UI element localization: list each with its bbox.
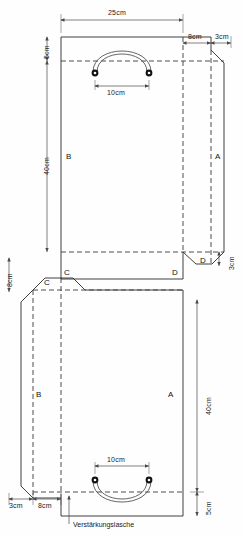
dim-label-glue-tab: 8cm xyxy=(188,33,202,40)
lower-sheet-outline xyxy=(21,278,183,516)
eyelet-upper-right xyxy=(146,70,153,77)
eyelet-lower-left xyxy=(92,477,99,484)
dim-label-handle-upper: 10cm xyxy=(107,89,125,96)
handle-upper xyxy=(93,51,151,72)
panel-label-c-tab: C xyxy=(44,278,50,287)
dim-label-side-tab: 3cm xyxy=(215,33,229,40)
dim-label-top-width: 25cm xyxy=(108,9,126,16)
dim-label-d-tab: 3cm xyxy=(228,256,235,270)
dim-label-left-gusset: 8cm xyxy=(6,273,13,287)
panel-label-c-right: C xyxy=(64,268,70,277)
dim-label-height-upper: 40cm xyxy=(43,157,50,175)
panel-label-a-upper: A xyxy=(215,152,220,161)
eyelet-upper-left xyxy=(92,70,99,77)
panel-label-a-lower: A xyxy=(168,390,173,399)
dim-label-bottom-hem: 5cm xyxy=(205,501,212,515)
panel-label-d-left: D xyxy=(172,268,178,277)
dim-label-top-hem: 5cm xyxy=(43,45,50,59)
panel-label-d-tab: D xyxy=(200,256,206,265)
panel-label-b-upper: B xyxy=(66,152,71,161)
annotation-reinforcement-tab: Verstärkungslasche xyxy=(73,521,134,528)
panel-label-b-lower: B xyxy=(36,390,41,399)
upper-sheet-fold-lines xyxy=(61,37,224,264)
dim-label-handle-lower: 10cm xyxy=(107,456,125,463)
pattern-drawing-canvas: 25cm 5cm 8cm 3cm 10cm 40cm 3cm 8cm 3cm 8… xyxy=(0,0,244,537)
handle-lower xyxy=(93,481,151,502)
eyelet-lower-right xyxy=(146,477,153,484)
dim-label-bottom-8cm: 8cm xyxy=(38,502,52,509)
upper-sheet-outline xyxy=(61,37,224,279)
dim-label-height-lower: 40cm xyxy=(205,397,212,415)
dim-label-bottom-3cm: 3cm xyxy=(9,502,23,509)
lower-sheet-fold-lines xyxy=(33,278,183,498)
